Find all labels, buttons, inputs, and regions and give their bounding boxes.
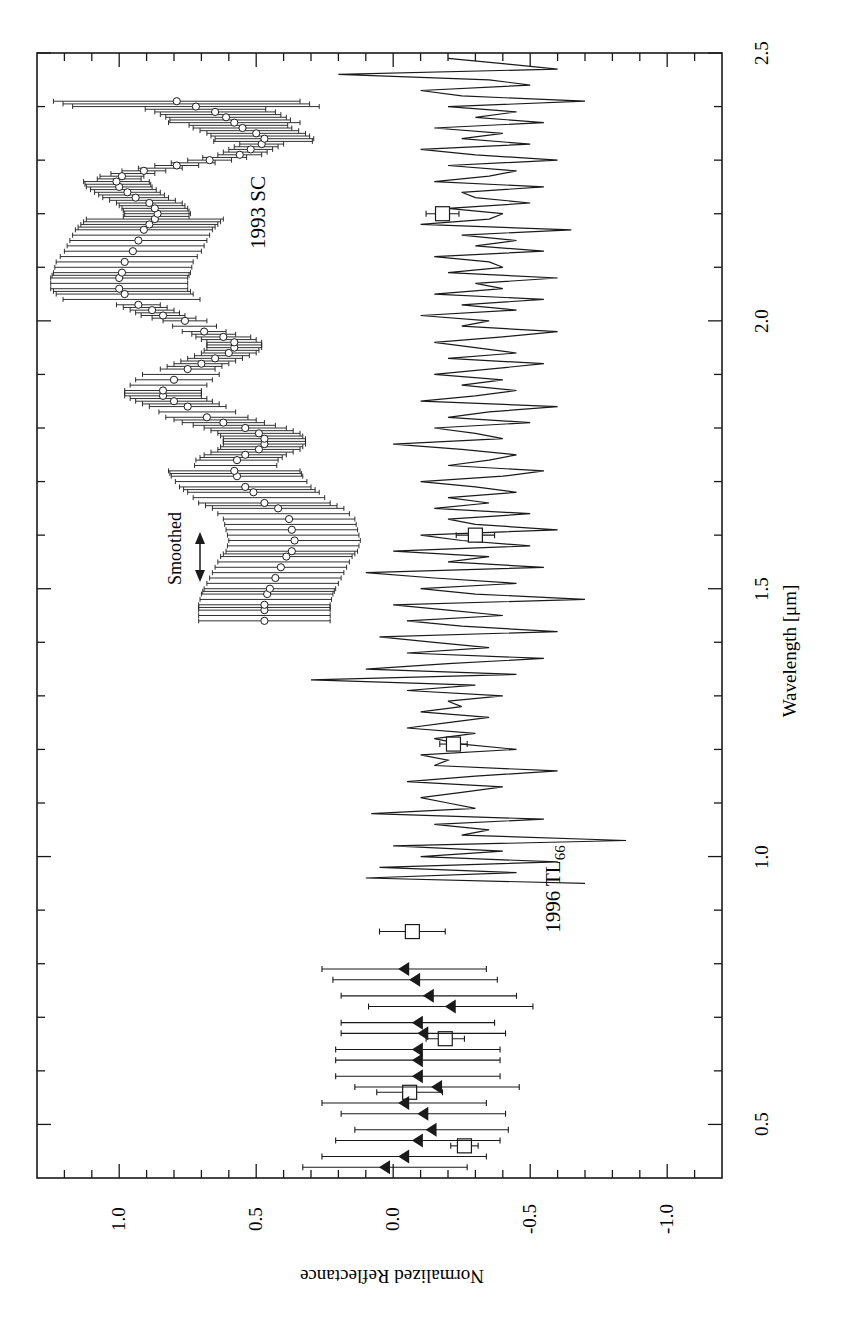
- sc-data-point: [225, 349, 232, 356]
- sc-data-point: [222, 114, 229, 121]
- sc-data-point: [140, 167, 147, 174]
- sc-data-point: [146, 221, 153, 228]
- sc-data-point: [198, 360, 205, 367]
- y-tick-label: -1.0: [656, 1197, 678, 1241]
- sc-data-point: [285, 515, 292, 522]
- triangle-marker: [417, 1107, 428, 1121]
- sc-data-point: [203, 414, 210, 421]
- square-marker: [446, 737, 460, 751]
- sc-data-point: [148, 307, 155, 314]
- sc-data-point: [212, 355, 219, 362]
- sc-data-point: [291, 537, 298, 544]
- triangle-marker: [445, 1000, 456, 1014]
- smoothed-double-arrow-icon: [195, 532, 205, 582]
- series-label-1993sc: 1993 SC: [246, 163, 271, 263]
- sc-data-point: [242, 424, 249, 431]
- triangle-marker: [412, 1042, 423, 1056]
- sc-data-point: [135, 301, 142, 308]
- sc-data-point: [170, 376, 177, 383]
- tl66-spectrum-path: [311, 58, 626, 883]
- triangle-marker: [398, 1150, 409, 1164]
- sc-data-point: [170, 398, 177, 405]
- sc-data-point: [159, 312, 166, 319]
- sc-data-point: [242, 451, 249, 458]
- sc-data-point: [184, 365, 191, 372]
- y-tick-label: -0.5: [519, 1197, 541, 1241]
- arrow-head-down: [195, 570, 205, 582]
- sc-data-point: [275, 505, 282, 512]
- sc-data-point: [121, 290, 128, 297]
- arrow-head-up: [195, 532, 205, 544]
- x-tick-label: 2.5: [751, 33, 773, 73]
- sc-data-point: [212, 108, 219, 115]
- sc-data-point: [277, 564, 284, 571]
- sc-data-point: [184, 403, 191, 410]
- triangle-marker: [423, 989, 434, 1003]
- photometry-squares: [377, 207, 495, 1153]
- sc-data-point: [247, 146, 254, 153]
- triangle-marker: [379, 1160, 390, 1174]
- sc-data-point: [118, 269, 125, 276]
- sc-data-point: [118, 173, 125, 180]
- sc-data-point: [206, 157, 213, 164]
- sc-data-point: [129, 248, 136, 255]
- sc-data-point: [181, 317, 188, 324]
- sc-data-point: [220, 333, 227, 340]
- sc-data-point: [261, 135, 268, 142]
- y-tick-label: 1.0: [108, 1197, 130, 1241]
- sc-data-point: [201, 328, 208, 335]
- sc-data-point: [283, 553, 290, 560]
- sc-data-point: [250, 489, 257, 496]
- sc-data-point: [124, 189, 131, 196]
- sc-data-point: [239, 124, 246, 131]
- sc-data-point: [231, 119, 238, 126]
- x-tick-label: 2.0: [751, 301, 773, 341]
- x-axis-label: Wavelength [μm]: [779, 551, 801, 751]
- sc-data-point: [121, 258, 128, 265]
- y-tick-label: 0.0: [382, 1197, 404, 1241]
- sc-data-point: [220, 419, 227, 426]
- triangle-marker: [412, 1016, 423, 1030]
- sc-data-point: [116, 285, 123, 292]
- sc-smoothed-series: [51, 98, 361, 625]
- square-marker: [405, 925, 419, 939]
- triangle-marker: [412, 1134, 423, 1148]
- sc-data-point: [132, 194, 139, 201]
- y-axis-label: Normalized Reflectance: [262, 1265, 522, 1287]
- smoothed-label: Smoothed: [165, 504, 186, 594]
- square-marker: [468, 528, 482, 542]
- tl66-spectrum-line: [311, 58, 626, 883]
- series-label-1996tl66: 1996 TL66: [541, 834, 569, 944]
- spectrophotometry-triangles: [303, 962, 533, 1174]
- sc-data-point: [146, 199, 153, 206]
- sc-data-point: [173, 98, 180, 105]
- sc-data-point: [173, 162, 180, 169]
- sc-data-point: [113, 178, 120, 185]
- triangle-marker: [409, 973, 420, 987]
- tl66-label-subscript: 66: [552, 845, 568, 860]
- sc-data-point: [261, 435, 268, 442]
- triangle-marker: [398, 962, 409, 976]
- sc-data-point: [236, 151, 243, 158]
- sc-data-point: [255, 446, 262, 453]
- sc-data-point: [159, 387, 166, 394]
- sc-data-point: [261, 499, 268, 506]
- triangle-marker: [426, 1123, 437, 1137]
- sc-data-point: [140, 226, 147, 233]
- sc-data-point: [253, 130, 260, 137]
- sc-data-point: [261, 617, 268, 624]
- sc-data-point: [135, 237, 142, 244]
- sc-data-point: [288, 526, 295, 533]
- sc-data-point: [261, 601, 268, 608]
- sc-data-point: [288, 548, 295, 555]
- sc-data-point: [192, 103, 199, 110]
- sc-data-point: [266, 585, 273, 592]
- sc-data-point: [255, 430, 262, 437]
- reflectance-chart: [0, 0, 857, 1328]
- x-tick-label: 0.5: [751, 1104, 773, 1144]
- sc-data-point: [233, 457, 240, 464]
- sc-data-point: [231, 339, 238, 346]
- x-tick-label: 1.5: [751, 569, 773, 609]
- sc-data-point: [231, 467, 238, 474]
- square-marker: [436, 207, 450, 221]
